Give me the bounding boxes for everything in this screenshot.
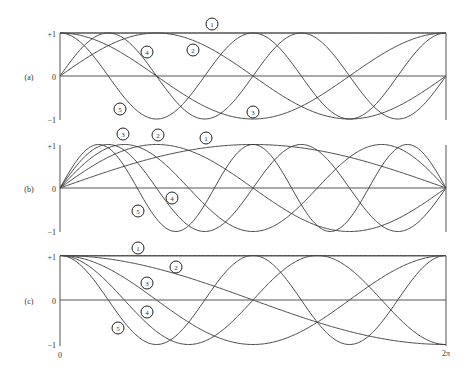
curve-marker-label: 5 (116, 325, 120, 333)
curve-marker-label: 4 (145, 49, 149, 57)
panel-b-ytick-bot: −1 (47, 228, 56, 237)
curve-marker-label: 5 (136, 208, 140, 216)
panel-b-label: (b) (24, 185, 34, 194)
panel-a: +1 0 −1 (a) 12345 (25, 18, 446, 125)
panel-b: +1 0 −1 (b) 12345 (24, 128, 446, 237)
curve-marker-label: 1 (210, 21, 214, 29)
panel-c-ytick-top: +1 (47, 253, 56, 262)
panel-c: +1 0 −1 (c) 12345 0 2π (25, 242, 450, 360)
figure: +1 0 −1 (a) 12345 +1 0 −1 (b) 12345 +1 0… (0, 0, 469, 378)
panel-a-ytick-top: +1 (47, 30, 56, 39)
panel-b-ytick-top: +1 (47, 142, 56, 151)
panel-a-ytick-bot: −1 (47, 116, 56, 125)
panel-a-label: (a) (25, 73, 34, 82)
curve-marker-label: 4 (170, 195, 174, 203)
panel-c-ytick-bot: −1 (47, 341, 56, 350)
curve-marker-label: 2 (174, 264, 178, 272)
x-axis-end-label: 2π (442, 349, 450, 358)
x-axis-start-label: 0 (58, 351, 62, 360)
curve-marker-label: 3 (251, 109, 255, 117)
curve-1 (60, 145, 446, 189)
panel-c-label: (c) (25, 297, 34, 306)
curve-marker-label: 2 (191, 47, 195, 55)
curve-marker-label: 4 (145, 309, 149, 317)
panel-a-ytick-mid: 0 (52, 73, 56, 82)
curve-marker-label: 1 (204, 135, 208, 143)
curve-marker-label: 5 (118, 106, 122, 114)
panel-c-ytick-mid: 0 (52, 297, 56, 306)
panel-b-markers: 12345 (117, 128, 212, 217)
curve-marker-label: 3 (121, 131, 125, 139)
curve-marker-label: 1 (136, 245, 140, 253)
curve-marker-label: 2 (156, 132, 160, 140)
panel-b-ytick-mid: 0 (52, 185, 56, 194)
curve-marker-label: 3 (145, 280, 149, 288)
